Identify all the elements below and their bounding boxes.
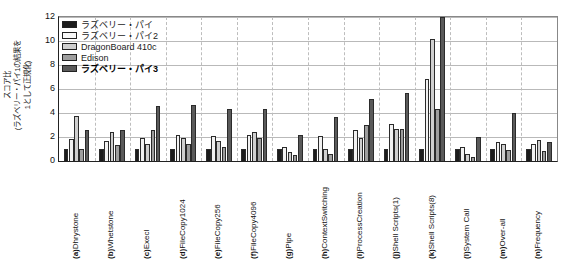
bar [156, 106, 161, 161]
bar [531, 144, 536, 161]
legend-item[interactable]: ラズベリー・パイ [62, 19, 158, 30]
x-axis-labels: (a)Dhrystone(b)Whetstone(c)Execl(d)FileC… [58, 163, 558, 263]
legend-swatch-icon [62, 43, 77, 50]
bar [323, 149, 328, 161]
bar-group [344, 17, 380, 161]
legend-item[interactable]: DragonBoard 410c [62, 41, 158, 52]
bar [241, 149, 246, 161]
bar-group [521, 17, 557, 161]
bar [277, 149, 282, 161]
bar [318, 136, 323, 161]
bar [496, 142, 501, 161]
legend-item-label: ラズベリー・パイ2 [81, 31, 158, 41]
x-axis-tick-label: (g)Pipe [284, 233, 293, 259]
legend-item-label: DragonBoard 410c [81, 42, 157, 52]
bar [542, 151, 547, 161]
legend-swatch-icon [62, 54, 77, 61]
bar [348, 149, 353, 161]
bar [506, 150, 511, 161]
bar [288, 152, 293, 161]
bar [394, 129, 399, 161]
bar [425, 79, 430, 161]
bar-group [272, 17, 308, 161]
bar [216, 141, 221, 161]
x-axis-label-wrap: (m)Over-all [496, 163, 510, 261]
bar [430, 39, 435, 161]
bar [313, 149, 318, 161]
y-axis-tick-label: 2 [50, 131, 55, 141]
bar [85, 130, 90, 161]
x-axis-label-wrap: (b)Whetstone [104, 163, 118, 261]
bar [293, 155, 298, 161]
x-axis-label-wrap: (f)FileCopy4096 [247, 163, 261, 261]
x-axis-label-wrap: (a)Dhrystone [69, 163, 83, 261]
bar [364, 125, 369, 161]
bar [115, 145, 120, 161]
x-axis-tick-label: (n)Frequency [533, 211, 542, 259]
bar [170, 149, 175, 161]
bar-group [308, 17, 344, 161]
bar-group [237, 17, 273, 161]
bar [405, 93, 410, 161]
x-axis-label-wrap: (n)Frequency [531, 163, 545, 261]
bar [64, 149, 69, 161]
y-axis-tick-label: 0 [50, 155, 55, 165]
x-axis-tick-label: (b)Whetstone [106, 211, 115, 259]
bar [99, 149, 104, 161]
bar [328, 154, 333, 161]
bar [181, 138, 186, 161]
bar [512, 113, 517, 161]
bar [455, 149, 460, 161]
bar-group [201, 17, 237, 161]
x-axis-label-wrap: (d)FileCopy1024 [176, 163, 190, 261]
bar-group [166, 17, 202, 161]
x-axis-label-wrap: (l)System Call [460, 163, 474, 261]
bar [419, 149, 424, 161]
bar-group [379, 17, 415, 161]
bar [359, 138, 364, 161]
x-axis-tick-label: (k)Shell Scripts(8) [427, 195, 436, 259]
y-axis-tick-label: 10 [45, 35, 55, 45]
legend-item-label: Edison [81, 53, 109, 63]
bar [222, 147, 227, 161]
legend: ラズベリー・パイラズベリー・パイ2DragonBoard 410cEdisonラ… [60, 18, 160, 75]
y-axis-tick-label: 4 [50, 107, 55, 117]
bar [263, 109, 268, 161]
bar [465, 154, 470, 161]
x-axis-label-wrap: (c)Execl [140, 163, 154, 261]
bar [490, 149, 495, 161]
bar [227, 109, 232, 161]
bar [145, 144, 150, 161]
x-axis-label-wrap: (h)ContextSwitching [318, 163, 332, 261]
bar [151, 130, 156, 161]
x-axis-tick-label: (f)FileCopy4096 [249, 202, 258, 259]
bar [353, 130, 358, 161]
bar [369, 99, 374, 161]
x-axis-label-wrap: (j)Shell Scripts(1) [389, 163, 403, 261]
bar [252, 132, 257, 161]
bar [257, 138, 262, 161]
bar [384, 149, 389, 161]
legend-swatch-icon [62, 21, 77, 28]
legend-item[interactable]: ラズベリー・パイ2 [62, 30, 158, 41]
bar [282, 147, 287, 161]
x-axis-tick-label: (a)Dhrystone [71, 213, 80, 259]
bar [247, 135, 252, 161]
bar [186, 144, 191, 161]
bar-group [415, 17, 451, 161]
bar [435, 109, 440, 161]
bar [120, 130, 125, 161]
bar-group [450, 17, 486, 161]
bar [476, 137, 481, 161]
legend-item[interactable]: Edison [62, 52, 158, 63]
legend-item-label: ラズベリー・パイ [81, 20, 153, 30]
bar [104, 141, 109, 161]
bar [389, 124, 394, 161]
bar [79, 149, 84, 161]
bar [135, 149, 140, 161]
legend-item[interactable]: ラズベリー・パイ3 [62, 63, 158, 74]
legend-item-label: ラズベリー・パイ3 [81, 64, 158, 74]
bar [501, 144, 506, 161]
bar [211, 136, 216, 161]
legend-swatch-icon [62, 32, 77, 39]
